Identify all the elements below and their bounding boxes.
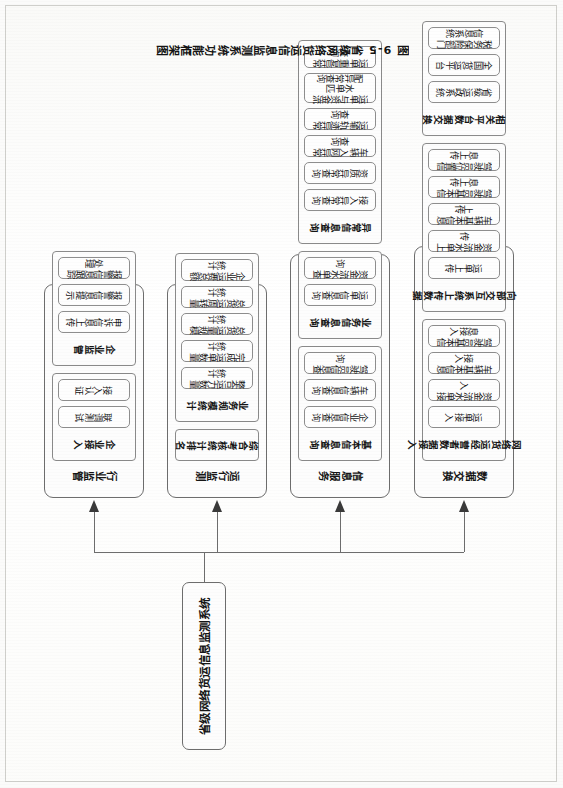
- root-node[interactable]: 省级网络货运信息监测系统: [182, 582, 226, 750]
- group-operator-data-access[interactable]: 网络货运经营者数据接入 运单接入 资金流水单接入 车辆基本信息接入 驾驶员基本信: [422, 319, 506, 461]
- leaf-item[interactable]: 申诉信息上传: [58, 311, 130, 333]
- leaf-item[interactable]: 总货运周转量统计: [181, 286, 253, 308]
- group-title: 企业监管: [58, 338, 130, 360]
- leaf-item[interactable]: 企业运费总额统计: [181, 259, 253, 281]
- group-title: 向部交互系统上传数据: [428, 284, 500, 306]
- column-groups: 网络货运经营者数据接入 运单接入 资金流水单接入 车辆基本信息接入 驾驶员基本信: [422, 21, 506, 461]
- leaf-item[interactable]: 完成运单数量统计: [181, 340, 253, 362]
- group-business-info-query[interactable]: 业务信息查询 运单信息查询 资金流水单查询: [298, 251, 382, 339]
- column-information-service[interactable]: 信息服务 基本信息查询 企业信息查询 车辆信息查询: [290, 254, 390, 498]
- leaf-item[interactable]: 驾驶员信息查询: [304, 352, 376, 374]
- leaf-item[interactable]: 资金流水单查询: [304, 257, 376, 279]
- leaf-item[interactable]: 运单信息查询: [304, 284, 376, 306]
- group-abnormal-info-query[interactable]: 异常信息查询 接入异常查询 资质异常查询 车辆入网异常查询 运输轨迹异常查询: [298, 40, 382, 244]
- leaf-item[interactable]: 驾驶员位置信息上传: [428, 149, 500, 171]
- group-enterprise-access[interactable]: 企业接入 联调测试 接入认证: [52, 373, 136, 461]
- group-enterprise-supervision[interactable]: 企业监管 申诉信息上传 报警信息提示 报警信息跟踪处理: [52, 251, 136, 366]
- group-title: 企业接入: [58, 433, 130, 455]
- leaf-item[interactable]: 车辆信息查询: [304, 379, 376, 401]
- column-groups: 企业接入 联调测试 接入认证 企业监管: [52, 251, 136, 461]
- column-title: 信息服务: [298, 461, 382, 491]
- leaf-item[interactable]: 运单上传: [428, 257, 500, 279]
- figure-caption: 图 9-5 省级网络货运信息监测系统功能框架图: [155, 38, 408, 60]
- leaf-item[interactable]: 车辆基本信息接入: [428, 352, 500, 374]
- group-basic-info-query[interactable]: 基本信息查询 企业信息查询 车辆信息查询 驾驶员信息查询: [298, 346, 382, 461]
- leaf-item[interactable]: 报警信息提示: [58, 284, 130, 306]
- group-title: 业务信息查询: [304, 311, 376, 333]
- leaf-item[interactable]: 联调测试: [58, 406, 130, 428]
- leaf-item[interactable]: 接入异常查询: [304, 189, 376, 211]
- leaf-item[interactable]: 驾驶员基本信息接入: [428, 325, 500, 347]
- column-industry-supervision[interactable]: 行业监管 企业接入 联调测试 接入认证: [44, 284, 144, 498]
- column-groups: 基本信息查询 企业信息查询 车辆信息查询 驾驶员信息查询: [298, 40, 382, 461]
- leaf-item[interactable]: 资金流水单上传: [428, 230, 500, 252]
- column-groups: 综合考核统计排名 业务规模统计 整合运力数量统计 完成运单数量统计: [175, 253, 259, 461]
- group-title: 网络货运经营者数据接入: [428, 433, 500, 455]
- group-title: 基本信息查询: [304, 433, 376, 455]
- group-ministry-upload[interactable]: 向部交互系统上传数据 运单上传 资金流水单上传 车辆基本信息上传 驾驶员基本信息: [422, 143, 506, 312]
- column-operation-monitoring[interactable]: 运行监测 综合考核统计排名 业务规模统计 整合运力数量统计: [167, 284, 267, 498]
- column-title: 数据交换: [422, 461, 506, 491]
- leaf-item[interactable]: 车辆入网异常查询: [304, 135, 376, 157]
- leaf-item[interactable]: 整合运力数量统计: [181, 367, 253, 389]
- group-title: 综合考核统计排名: [181, 434, 253, 456]
- group-title: 相关平台数据交换: [428, 108, 500, 130]
- column-title: 运行监测: [175, 461, 259, 491]
- diagram-stage: 省级网络货运信息监测系统 行业监管 企业接入 联调测试: [32, 24, 532, 764]
- leaf-item[interactable]: 资质异常查询: [304, 162, 376, 184]
- root-node-label: 省级网络货运信息监测系统: [196, 597, 212, 735]
- leaf-item[interactable]: 车辆基本信息上传: [428, 203, 500, 225]
- leaf-item[interactable]: 接入认证: [58, 379, 130, 401]
- leaf-item[interactable]: 运单接入: [428, 406, 500, 428]
- column-data-exchange[interactable]: 数据交换 网络货运经营者数据接入 运单接入 资金流水单接入: [414, 246, 514, 498]
- group-business-scale-stats[interactable]: 业务规模统计 整合运力数量统计 完成运单数量统计 总货运量规模统计 总货运周转量: [175, 253, 259, 422]
- leaf-item[interactable]: 省级运政系统: [428, 81, 500, 103]
- leaf-item[interactable]: 总货运量规模统计: [181, 313, 253, 335]
- group-title: 异常信息查询: [304, 216, 376, 238]
- leaf-item[interactable]: 资金流水单接入: [428, 379, 500, 401]
- leaf-item[interactable]: 税务保险部门信息系统: [428, 27, 500, 49]
- leaf-item[interactable]: 企业信息查询: [304, 406, 376, 428]
- leaf-item[interactable]: 运输轨迹异常查询: [304, 108, 376, 130]
- column-title: 行业监管: [52, 461, 136, 491]
- leaf-item[interactable]: 驾驶员基本信息上传: [428, 176, 500, 198]
- leaf-item[interactable]: 报警信息跟踪处理: [58, 257, 130, 279]
- leaf-item[interactable]: 运单与资金流水单匹 配异常查询: [304, 73, 376, 103]
- group-title: 业务规模统计: [181, 394, 253, 416]
- leaf-item[interactable]: 全国货运平台: [428, 54, 500, 76]
- diagram-stage-wrapper: 省级网络货运信息监测系统 行业监管 企业接入 联调测试: [0, 0, 563, 788]
- group-comprehensive-ranking[interactable]: 综合考核统计排名: [175, 429, 259, 461]
- group-platform-exchange[interactable]: 相关平台数据交换 省级运政系统 全国货运平台 税务保险部门信息系统: [422, 21, 506, 136]
- figure-page: 省级网络货运信息监测系统 行业监管 企业接入 联调测试: [0, 0, 563, 788]
